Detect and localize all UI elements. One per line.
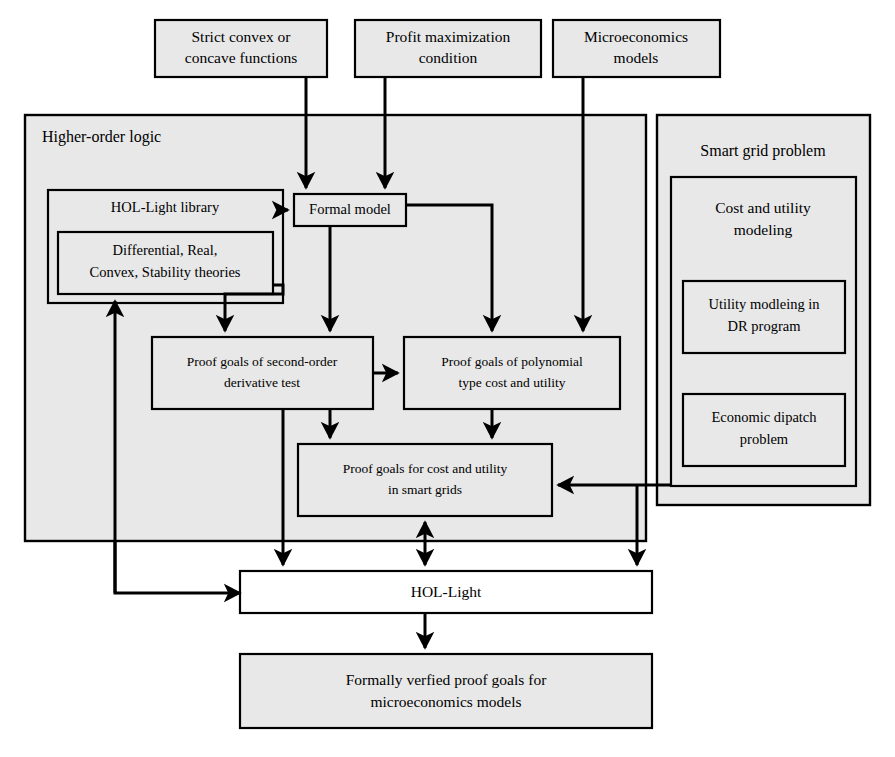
flowchart-diagram: Strict convex or concave functions Profi… [0, 0, 895, 757]
proof-goals-smart-grids-box[interactable] [298, 444, 552, 516]
microeconomics-label-line1: Microeconomics [584, 28, 688, 45]
hol-light-library-label: HOL-Light library [111, 199, 220, 215]
utility-modeling-dr-line2: DR program [728, 318, 802, 334]
higher-order-logic-title: Higher-order logic [42, 128, 161, 146]
theories-label-line2: Convex, Stability theories [89, 264, 240, 280]
strict-convex-label-line2: concave functions [185, 49, 297, 66]
flowchart-canvas: Strict convex or concave functions Profi… [0, 0, 895, 757]
output-label-line1: Formally verfied proof goals for [346, 671, 547, 688]
hol-light-label: HOL-Light [411, 583, 482, 600]
proof-goals-polynomial-line1: Proof goals of polynomial [441, 354, 583, 369]
proof-goals-polynomial-line2: type cost and utility [459, 375, 566, 390]
profit-max-label-line1: Profit maximization [386, 28, 511, 45]
utility-modeling-dr-line1: Utility modleing in [708, 296, 820, 312]
economic-dispatch-line2: problem [740, 431, 789, 447]
top-input-profit-max[interactable]: Profit maximization condition [355, 20, 541, 77]
proof-goals-smart-grids-line2: in smart grids [388, 482, 462, 497]
proof-goals-smart-grids-line1: Proof goals for cost and utility [343, 461, 508, 476]
strict-convex-label-line1: Strict convex or [191, 28, 291, 45]
cost-and-utility-modeling-line2: modeling [734, 221, 793, 238]
utility-modeling-dr-box[interactable] [683, 281, 845, 353]
microeconomics-label-line2: models [614, 49, 659, 66]
edge-hol-light-feedback-segment [115, 541, 234, 593]
output-label-line2: microeconomics models [370, 693, 521, 710]
profit-max-label-line2: condition [419, 49, 478, 66]
top-input-strict-convex[interactable]: Strict convex or concave functions [155, 20, 327, 77]
economic-dispatch-box[interactable] [683, 394, 845, 466]
cost-and-utility-modeling-line1: Cost and utility [715, 199, 811, 216]
formal-model-label: Formal model [309, 201, 391, 217]
economic-dispatch-line1: Economic dipatch [711, 409, 817, 425]
output-box[interactable] [240, 654, 652, 728]
proof-goals-second-order-line2: derivative test [224, 375, 300, 390]
smart-grid-problem-title: Smart grid problem [700, 142, 826, 160]
theories-label-line1: Differential, Real, [113, 242, 218, 258]
proof-goals-second-order-box[interactable] [152, 337, 373, 409]
proof-goals-polynomial-box[interactable] [404, 337, 620, 409]
top-input-microeconomics[interactable]: Microeconomics models [553, 20, 720, 77]
theories-box[interactable] [58, 232, 273, 294]
proof-goals-second-order-line1: Proof goals of second-order [187, 354, 338, 369]
